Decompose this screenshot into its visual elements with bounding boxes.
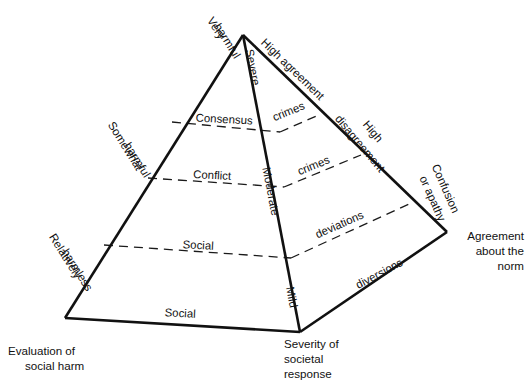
- band-label-conflict: Conflict: [193, 168, 232, 182]
- axis-caption-left-line2: social harm: [25, 359, 84, 372]
- axis-caption-agreement-about-the-norm: Agreement about the norm: [467, 229, 524, 272]
- edge-label-somewhat-harmful-line2: harmful: [122, 140, 154, 180]
- band-label-crimes-upper: crimes: [271, 99, 307, 123]
- pyramid-diagram-root: Very harmful Somewhat harmful Relatively…: [0, 0, 528, 389]
- band-label-social-upper: Social: [182, 238, 214, 252]
- edge-label-relatively-harmless-line2: harmless: [60, 246, 96, 293]
- front-edge-label-severe: Severe: [244, 48, 264, 87]
- axis-caption-front-line3: response: [284, 367, 332, 380]
- band-label-consensus: Consensus: [195, 112, 253, 127]
- axis-caption-front-line1: Severity of: [284, 337, 340, 350]
- front-edge-label-moderate: Moderate: [260, 166, 282, 217]
- right-face-edge-labels: High agreement High disagreement Confusi…: [259, 35, 463, 223]
- edge-label-high-disagreement-line2: disagreement: [333, 112, 389, 175]
- axis-caption-right-line3: norm: [498, 259, 524, 272]
- axis-caption-front-line2: societal: [284, 352, 323, 365]
- left-face-band-labels: Consensus Conflict Social Social: [164, 112, 253, 320]
- axis-caption-right-line2: about the: [476, 244, 524, 257]
- axis-caption-evaluation-of-social-harm: Evaluation of social harm: [8, 344, 84, 372]
- edge-base-left: [65, 318, 300, 332]
- right-face-tier-lines: [280, 114, 409, 258]
- edge-label-high-agreement: High agreement: [259, 35, 328, 102]
- left-face-edge-labels: Very harmful Somewhat harmful Relatively…: [47, 14, 244, 293]
- front-edge-label-mild: Mild: [284, 285, 301, 308]
- axis-caption-left-line1: Evaluation of: [8, 344, 76, 357]
- band-label-social-lower: Social: [164, 306, 196, 320]
- band-label-diversions: diversions: [354, 256, 405, 291]
- pyramid-diagram: Very harmful Somewhat harmful Relatively…: [0, 0, 528, 389]
- axis-caption-severity-of-societal-response: Severity of societal response: [284, 337, 340, 380]
- axis-caption-right-line1: Agreement: [467, 229, 524, 242]
- band-label-crimes-lower: crimes: [296, 153, 332, 177]
